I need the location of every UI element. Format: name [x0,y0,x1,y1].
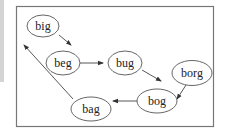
diagram: big beg bug borg bog bag [0,0,229,140]
node-bog-label: bog [148,94,166,108]
node-borg: borg [172,61,212,86]
edge-bug-to-bog [142,70,161,81]
node-big-label: big [35,19,50,33]
node-big: big [27,15,59,37]
node-bag-label: bag [82,102,99,116]
node-beg-label: beg [54,56,71,70]
edge-borg-to-bog [177,85,186,99]
edge-big-to-beg [59,35,71,45]
node-beg: beg [46,51,80,75]
node-bug: bug [108,51,142,75]
node-bag: bag [71,97,111,121]
node-borg-label: borg [181,66,203,80]
node-bog: bog [137,89,177,113]
node-bug-label: bug [116,56,134,70]
